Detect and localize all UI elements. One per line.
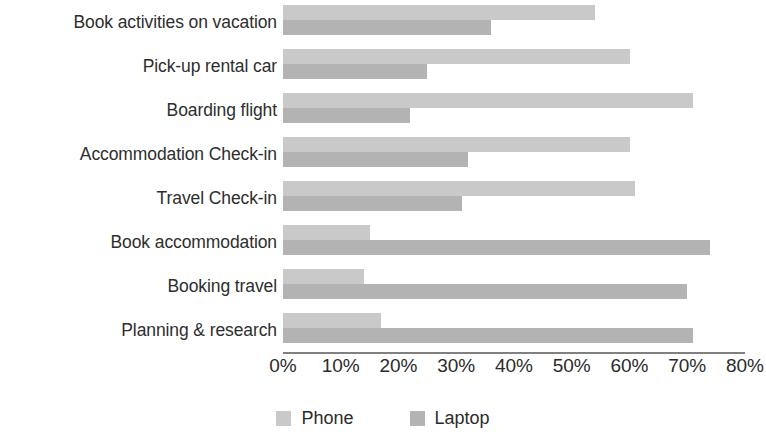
category-label: Accommodation Check-in: [80, 132, 277, 176]
category-row: Book accommodation: [0, 220, 766, 264]
bar-laptop: [283, 240, 710, 255]
bar-phone: [283, 93, 693, 108]
x-tick-label: 60%: [610, 355, 648, 377]
bar-phone: [283, 137, 630, 152]
legend-item-laptop[interactable]: Laptop: [410, 408, 490, 429]
bar-laptop: [283, 152, 468, 167]
x-tick-label: 80%: [726, 355, 764, 377]
category-row: Travel Check-in: [0, 176, 766, 220]
bar-phone: [283, 49, 630, 64]
category-label: Travel Check-in: [157, 176, 277, 220]
bar-laptop: [283, 328, 693, 343]
category-label: Pick-up rental car: [143, 44, 277, 88]
bar-group: [283, 93, 753, 127]
x-tick-label: 40%: [495, 355, 533, 377]
legend-swatch-icon: [410, 411, 425, 426]
category-row: Planning & research: [0, 308, 766, 352]
bar-group: [283, 225, 753, 259]
bar-group: [283, 5, 753, 39]
legend-label: Phone: [301, 408, 353, 429]
bar-group: [283, 269, 753, 303]
x-tick-label: 30%: [437, 355, 475, 377]
bar-phone: [283, 313, 381, 328]
category-label: Book accommodation: [111, 220, 277, 264]
bar-group: [283, 181, 753, 215]
bar-group: [283, 49, 753, 83]
category-row: Booking travel: [0, 264, 766, 308]
category-row: Pick-up rental car: [0, 44, 766, 88]
bar-phone: [283, 5, 595, 20]
bar-phone: [283, 225, 370, 240]
x-tick-label: 10%: [322, 355, 360, 377]
category-label: Planning & research: [121, 308, 277, 352]
category-label: Book activities on vacation: [73, 0, 277, 44]
category-row: Accommodation Check-in: [0, 132, 766, 176]
x-tick-label: 50%: [553, 355, 591, 377]
x-tick-label: 0%: [269, 355, 296, 377]
x-tick-label: 70%: [668, 355, 706, 377]
bar-phone: [283, 269, 364, 284]
category-label: Booking travel: [168, 264, 278, 308]
x-tick-label: 20%: [379, 355, 417, 377]
bar-chart: Book activities on vacationPick-up renta…: [0, 0, 766, 436]
plot-area: Book activities on vacationPick-up renta…: [0, 0, 766, 352]
chart-legend: PhoneLaptop: [0, 400, 766, 436]
x-axis-line: [283, 352, 745, 354]
legend-swatch-icon: [276, 411, 291, 426]
bar-laptop: [283, 108, 410, 123]
bar-laptop: [283, 284, 687, 299]
category-label: Boarding flight: [167, 88, 277, 132]
bar-group: [283, 137, 753, 171]
bar-laptop: [283, 20, 491, 35]
legend-item-phone[interactable]: Phone: [276, 408, 353, 429]
bar-phone: [283, 181, 635, 196]
category-row: Boarding flight: [0, 88, 766, 132]
legend-label: Laptop: [435, 408, 490, 429]
bar-laptop: [283, 64, 427, 79]
bar-group: [283, 313, 753, 347]
category-row: Book activities on vacation: [0, 0, 766, 44]
x-axis-tick-labels: 0%10%20%30%40%50%60%70%80%: [0, 355, 766, 385]
bar-laptop: [283, 196, 462, 211]
